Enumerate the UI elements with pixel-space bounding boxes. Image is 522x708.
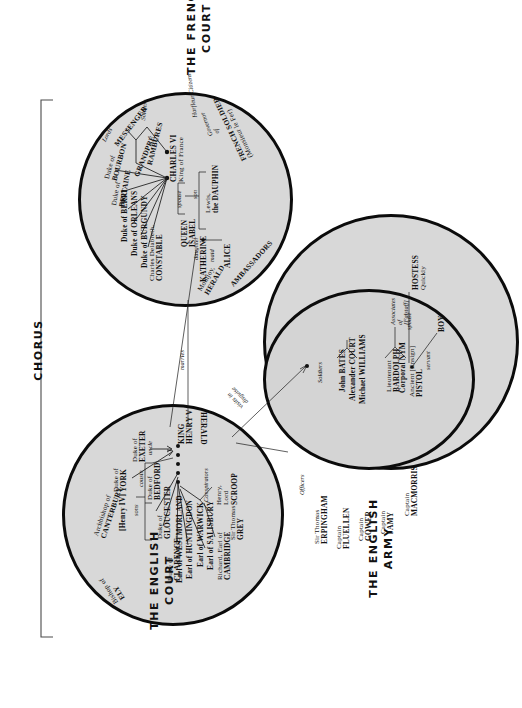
ec-huntingdon: Earl of HUNTINGDON: [186, 500, 194, 579]
caption-english-army-line2: ARMY: [382, 488, 397, 608]
fc-constable: Charles Delabreth, CONSTABLE: [149, 225, 164, 281]
ea-john-bates: John BATES: [339, 349, 347, 392]
ea-jamy: Captain JAMY: [380, 511, 395, 534]
fc-duke-orleans: Duke of ORLEANS: [131, 191, 139, 256]
ec-rel-uncle: uncle: [147, 441, 154, 455]
ec-westmorland: Earl of WESTMORLAND: [176, 495, 184, 583]
ea-soldiers: Soldiers: [317, 362, 324, 383]
connector-lines: [0, 0, 522, 708]
fc-rel-son: son: [192, 190, 199, 199]
ec-herald: HERALD: [199, 412, 207, 445]
caption-english-army-line1: THE ENGLISH: [367, 488, 382, 608]
fc-duke-berri: Duke of BERRI: [121, 189, 129, 242]
ea-officers: Officers: [299, 474, 306, 495]
fc-alice: ALICE: [224, 244, 232, 268]
fc-rel-spouse: spouse: [176, 191, 183, 208]
ea-michael-williams: Michael WILLIAMS: [359, 334, 367, 404]
fc-rel-daughter: daughter: [193, 237, 200, 260]
ec-salisbury: Earl of SALISBURY: [207, 501, 215, 570]
caption-french-court-line2: COURT: [200, 0, 215, 88]
ea-alexander-court: Alexander COURT: [349, 337, 357, 401]
ec-conspirators: Conspirators: [203, 468, 210, 502]
ec-rel-cousin: cousin: [138, 470, 145, 487]
ea-nym: Corporal NYM: [399, 342, 407, 393]
ea-macmorris: Captain MACMORRIS: [404, 466, 419, 516]
ec-duke-exeter: Duke of EXETER: [132, 430, 147, 462]
fc-dauphin: Lewis, the DAUPHIN: [205, 165, 220, 213]
ec-duke-gloucester: Duke of GLOUCESTER: [157, 486, 172, 539]
diagram-canvas: THE FRENCH COURT THE ENGLISH COURT THE E…: [0, 0, 522, 708]
ec-warwick: Earl of WARWICK: [197, 502, 205, 567]
ea-rel-servant: servant: [425, 351, 432, 370]
ec-grey: Sir Thomas GREY: [230, 506, 245, 540]
caption-english-army: THE ENGLISH ARMY: [367, 488, 397, 608]
ea-fluellen: Captain FLUELLEN: [336, 508, 351, 549]
ec-rel-sons: sons: [133, 505, 140, 516]
label-marries: marries: [179, 350, 186, 370]
ea-hostess-quickly: HOSTESS Quickly: [412, 255, 427, 290]
caption-chorus-label: CHORUS: [32, 300, 47, 400]
ea-erpingham: Sir Thomas ERPINGHAM: [314, 495, 329, 544]
fc-charles-vi: CHARLES VI King of France: [170, 134, 185, 182]
ea-gower: Captain GOWER: [358, 511, 373, 541]
caption-chorus: CHORUS: [32, 300, 47, 400]
ea-rel-spouse: spouse: [406, 313, 413, 330]
ec-king-henry-v: KING HENRY V: [178, 409, 194, 444]
ea-boy: BOY: [438, 315, 446, 332]
ec-scroop: Henry, Lord SCROOP: [216, 473, 238, 505]
ea-pistol: Ancient [Ensign] PISTOL: [409, 346, 424, 397]
